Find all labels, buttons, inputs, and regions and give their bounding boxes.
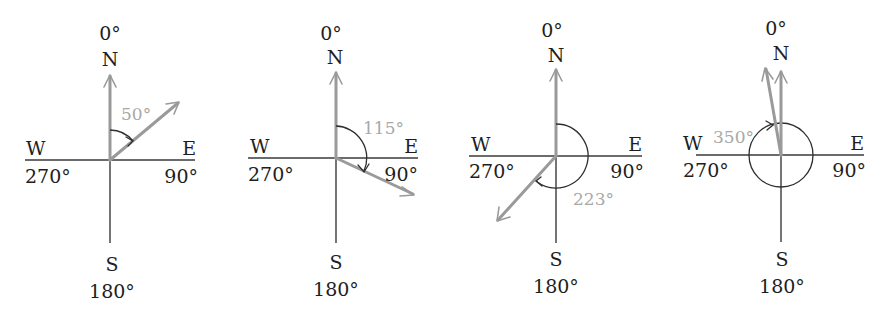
east-degree-label: 90° bbox=[384, 163, 418, 185]
south-degree-label: 180° bbox=[89, 280, 135, 302]
east-degree-label: 90° bbox=[832, 159, 866, 181]
west-label: W bbox=[250, 135, 270, 157]
north-label: N bbox=[548, 44, 565, 66]
west-degree-label: 270° bbox=[683, 159, 729, 181]
west-label: W bbox=[683, 132, 703, 154]
south-label: S bbox=[549, 248, 562, 270]
south-degree-label: 180° bbox=[759, 275, 805, 297]
west-degree-label: 270° bbox=[248, 163, 294, 185]
east-label: E bbox=[182, 137, 196, 159]
south-label: S bbox=[329, 251, 342, 273]
east-label: E bbox=[404, 135, 418, 157]
north-degree-label: 0° bbox=[320, 22, 342, 44]
bearing-vector bbox=[766, 69, 781, 155]
north-degree-label: 0° bbox=[541, 19, 563, 41]
south-label: S bbox=[105, 253, 118, 275]
north-label: N bbox=[773, 42, 790, 64]
east-label: E bbox=[850, 132, 864, 154]
north-degree-label: 0° bbox=[765, 17, 787, 39]
east-degree-label: 90° bbox=[610, 160, 644, 182]
angle-label: 115° bbox=[363, 118, 404, 138]
angle-label: 350° bbox=[713, 127, 754, 147]
south-degree-label: 180° bbox=[533, 275, 579, 297]
angle-label: 223° bbox=[573, 189, 614, 209]
north-label: N bbox=[102, 48, 119, 70]
east-label: E bbox=[628, 133, 642, 155]
west-degree-label: 270° bbox=[25, 165, 71, 187]
west-label: W bbox=[26, 137, 46, 159]
north-label: N bbox=[327, 46, 344, 68]
north-degree-label: 0° bbox=[99, 22, 121, 44]
compass-diagram-115: 0° N W 270° E 90° S 180° 115° bbox=[248, 22, 418, 300]
compass-diagram-50: 0° N W 270° E 90° S 180° 50° bbox=[25, 22, 198, 302]
west-degree-label: 270° bbox=[469, 160, 515, 182]
east-degree-label: 90° bbox=[164, 165, 198, 187]
south-degree-label: 180° bbox=[313, 278, 359, 300]
compass-bearings-figure: 0° N W 270° E 90° S 180° 50° 0° N W 270°… bbox=[0, 0, 882, 322]
south-label: S bbox=[775, 248, 788, 270]
angle-label: 50° bbox=[121, 104, 151, 124]
compass-diagram-350: 0° N W 270° E 90° S 180° 350° bbox=[683, 17, 866, 297]
compass-diagram-223: 0° N W 270° E 90° S 180° 223° bbox=[469, 19, 644, 297]
west-label: W bbox=[471, 133, 491, 155]
